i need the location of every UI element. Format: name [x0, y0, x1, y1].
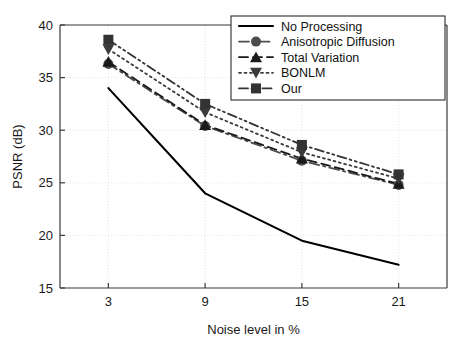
legend-marker-1 — [251, 37, 261, 47]
data-point-3-0 — [102, 44, 114, 55]
y-tick-label: 20 — [39, 228, 53, 243]
psnr-vs-noise-level-chart: 152025303540391521Noise level in %PSNR (… — [0, 0, 459, 341]
y-tick-label: 35 — [39, 70, 53, 85]
legend-label-4: Our — [281, 82, 302, 96]
legend-label-2: Total Variation — [281, 51, 359, 65]
x-tick-label: 21 — [391, 294, 405, 309]
data-point-4-1 — [200, 99, 210, 109]
series-line-0 — [108, 88, 398, 265]
data-point-4-3 — [394, 169, 404, 179]
data-point-3-1 — [199, 107, 211, 118]
y-tick-label: 25 — [39, 175, 53, 190]
y-tick-label: 40 — [39, 18, 53, 33]
y-axis-title: PSNR (dB) — [10, 124, 25, 188]
legend-label-1: Anisotropic Diffusion — [281, 35, 395, 49]
y-tick-label: 30 — [39, 123, 53, 138]
chart-canvas: 152025303540391521Noise level in %PSNR (… — [0, 0, 459, 341]
x-axis-title: Noise level in % — [207, 322, 300, 337]
legend-marker-4 — [251, 83, 261, 93]
x-tick-label: 3 — [105, 294, 112, 309]
y-tick-label: 15 — [39, 281, 53, 296]
data-point-4-2 — [297, 140, 307, 150]
x-tick-label: 9 — [202, 294, 209, 309]
legend-label-0: No Processing — [281, 20, 362, 34]
legend-label-3: BONLM — [281, 66, 325, 80]
x-tick-label: 15 — [295, 294, 309, 309]
data-point-4-0 — [103, 35, 113, 45]
